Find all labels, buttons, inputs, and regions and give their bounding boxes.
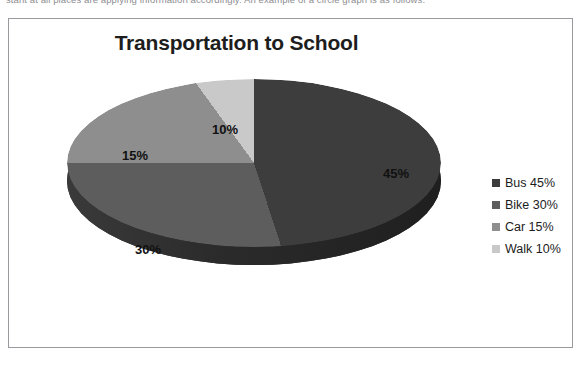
pie-top-face bbox=[67, 79, 441, 247]
legend-item-walk[interactable]: Walk 10% bbox=[492, 238, 578, 260]
legend-item-car[interactable]: Car 15% bbox=[492, 216, 578, 238]
pie-chart: 45% 30% 15% 10% bbox=[67, 69, 451, 301]
legend-swatch-bike bbox=[492, 201, 500, 209]
legend-label-walk: Walk 10% bbox=[505, 242, 561, 256]
legend-label-bus: Bus 45% bbox=[505, 176, 555, 190]
chart-container: Transportation to School 45% 30% 15% 10%… bbox=[8, 18, 573, 348]
pie-slice-label-walk: 10% bbox=[212, 122, 238, 137]
legend-label-car: Car 15% bbox=[505, 220, 554, 234]
legend-swatch-walk bbox=[492, 245, 500, 253]
legend-item-bike[interactable]: Bike 30% bbox=[492, 194, 578, 216]
legend-swatch-car bbox=[492, 223, 500, 231]
pie-slice-label-car: 15% bbox=[122, 148, 148, 163]
document-body-text: stant at all places are applying informa… bbox=[0, 0, 581, 9]
legend-item-bus[interactable]: Bus 45% bbox=[492, 172, 578, 194]
chart-legend: Bus 45% Bike 30% Car 15% Walk 10% bbox=[492, 172, 578, 260]
pie-slices bbox=[67, 79, 441, 247]
pie-slice-label-bike: 30% bbox=[135, 242, 161, 257]
chart-title: Transportation to School bbox=[9, 31, 464, 55]
legend-swatch-bus bbox=[492, 179, 500, 187]
legend-label-bike: Bike 30% bbox=[505, 198, 558, 212]
pie-slice-label-bus: 45% bbox=[383, 166, 409, 181]
document-body-text-line: stant at all places are applying informa… bbox=[6, 0, 425, 5]
